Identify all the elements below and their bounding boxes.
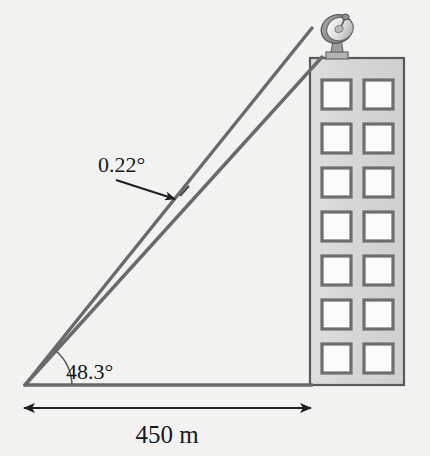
window [322, 124, 351, 153]
window [364, 256, 393, 285]
window [322, 168, 351, 197]
window [364, 300, 393, 329]
elevation-angle-label: 48.3° [66, 359, 113, 384]
window [322, 212, 351, 241]
dish-feed-horn [342, 14, 349, 20]
window [364, 168, 393, 197]
figure-container: 0.22° 48.3° 450 m [0, 0, 430, 456]
window [364, 124, 393, 153]
window [322, 80, 351, 109]
window [364, 80, 393, 109]
beam-angle-label: 0.22° [98, 152, 145, 177]
building [310, 58, 404, 385]
window [364, 212, 393, 241]
baseline-distance-label: 450 m [135, 421, 199, 448]
window [322, 344, 351, 373]
dish-base [326, 52, 348, 59]
trigonometry-diagram: 0.22° 48.3° 450 m [0, 0, 430, 456]
window [364, 344, 393, 373]
window [322, 300, 351, 329]
window [322, 256, 351, 285]
